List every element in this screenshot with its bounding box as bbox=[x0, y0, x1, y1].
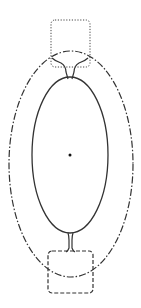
top-neck-left bbox=[52, 58, 68, 79]
top-square bbox=[51, 20, 90, 67]
top-neck-right bbox=[72, 58, 88, 79]
outer-ellipse bbox=[9, 51, 133, 277]
bottom-square bbox=[48, 251, 93, 293]
diagram-canvas bbox=[0, 0, 141, 308]
bottom-neck-left bbox=[66, 233, 69, 252]
center-point bbox=[69, 154, 72, 157]
bottom-neck-right bbox=[72, 233, 75, 252]
